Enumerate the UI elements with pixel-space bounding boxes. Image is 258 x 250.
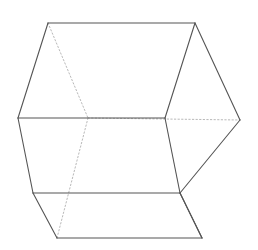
- hidden-upper-diagonal: [48, 23, 88, 118]
- front-upper-right-edge: [165, 23, 195, 118]
- lower-left-silhouette: [18, 118, 33, 193]
- hidden-lower-diagonal: [57, 118, 88, 238]
- front-vertical-right: [165, 118, 180, 193]
- upper-left-edge: [18, 23, 48, 118]
- figure-canvas: [0, 0, 258, 250]
- left-corner-edge: [33, 193, 57, 238]
- front-lower-right-edge: [180, 193, 202, 238]
- wireframe-cube-drawing: [0, 0, 258, 250]
- upper-right-edge: [195, 23, 240, 120]
- hidden-edges-group: [48, 23, 240, 238]
- visible-edges-group: [18, 23, 240, 238]
- lower-right-silhouette: [180, 120, 240, 193]
